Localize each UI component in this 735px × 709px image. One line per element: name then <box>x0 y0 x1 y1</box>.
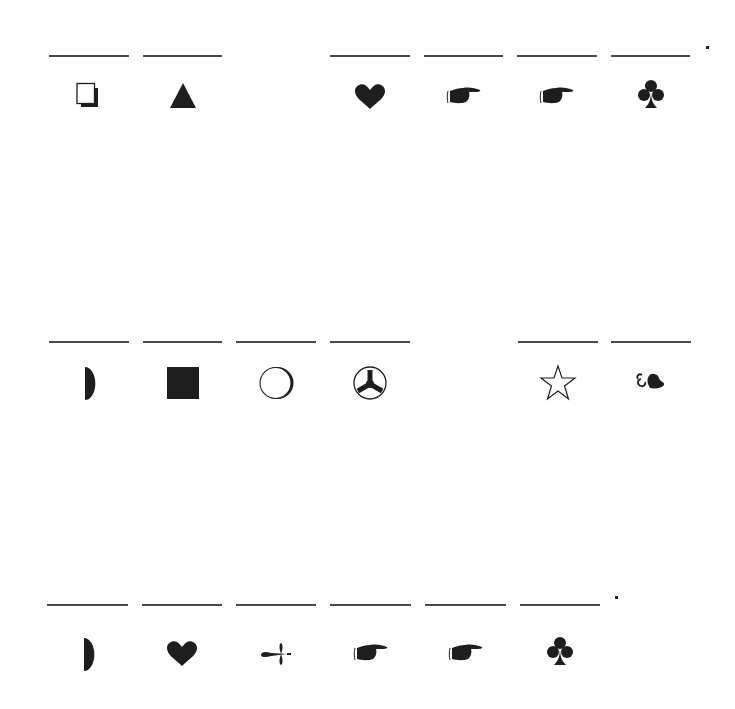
answer-blank-line[interactable] <box>330 55 410 57</box>
answer-blank-line[interactable] <box>236 604 316 606</box>
answer-blank-line[interactable] <box>518 341 598 343</box>
heart-icon <box>157 629 207 679</box>
answer-blank-line[interactable] <box>236 341 316 343</box>
floral-heart-bullet-icon <box>626 358 676 408</box>
club-icon <box>535 629 585 679</box>
heart-icon <box>345 72 395 122</box>
answer-blank-line[interactable] <box>611 341 691 343</box>
half-circle-icon <box>64 358 114 408</box>
period-mark <box>706 46 709 49</box>
pointing-hand-icon <box>439 72 489 122</box>
triangle-icon <box>158 72 208 122</box>
answer-blank-line[interactable] <box>517 55 597 57</box>
pointing-hand-icon <box>346 629 396 679</box>
answer-blank-line[interactable] <box>611 55 690 57</box>
answer-blank-line[interactable] <box>49 55 129 57</box>
filled-square-icon <box>158 358 208 408</box>
answer-blank-line[interactable] <box>424 55 503 57</box>
arrow-flourish-icon <box>251 629 301 679</box>
answer-blank-line[interactable] <box>330 341 410 343</box>
shadowed-square-icon <box>64 72 114 122</box>
shadowed-circle-icon <box>251 358 301 408</box>
answer-blank-line[interactable] <box>49 341 129 343</box>
answer-blank-line[interactable] <box>143 55 222 57</box>
answer-blank-line[interactable] <box>143 341 222 343</box>
pointing-hand-icon <box>441 629 491 679</box>
answer-blank-line[interactable] <box>330 604 411 606</box>
pointing-hand-icon <box>532 72 582 122</box>
half-circle-icon <box>63 629 113 679</box>
answer-blank-line[interactable] <box>142 604 222 606</box>
answer-blank-line[interactable] <box>520 604 600 606</box>
period-mark <box>615 596 618 599</box>
outline-star-icon <box>533 358 583 408</box>
answer-blank-line[interactable] <box>47 604 128 606</box>
answer-blank-line[interactable] <box>425 604 506 606</box>
radiation-circle-icon <box>345 358 395 408</box>
club-icon <box>626 72 676 122</box>
